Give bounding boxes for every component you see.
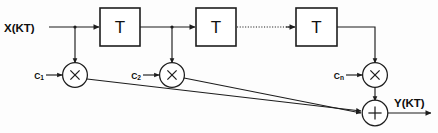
input-signal-label: X(KT) [4,22,35,34]
delay-block-1-label: T [115,18,125,37]
delay-block-3-label: T [311,18,321,37]
diagram-canvas: T T T X(KT) Y(KT) [0,0,438,133]
tap-wire-n [337,27,375,63]
coefficient-label-n: Cn [334,71,344,81]
fir-filter-diagram: T T T X(KT) Y(KT) [0,0,438,133]
coefficient-label-1: C1 [34,71,44,81]
delay-block-2-label: T [211,18,221,37]
coefficient-n-sub: n [340,74,344,81]
coefficient-label-2: C2 [131,71,141,81]
coefficient-2-sub: 2 [137,74,141,81]
tap-junction-1 [73,25,76,28]
wire-multiplier-2-to-summer [184,78,361,113]
output-signal-label: Y(KT) [394,97,425,109]
tap-junction-2 [170,25,173,28]
wire-multiplier-1-to-summer [87,79,361,111]
coefficient-1-sub: 1 [40,74,44,81]
